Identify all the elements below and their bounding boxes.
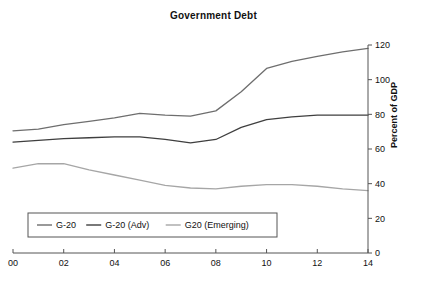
y-tick-label: 40 xyxy=(375,179,385,189)
series-line-0 xyxy=(13,48,368,130)
legend-label-0: G-20 xyxy=(56,220,76,230)
series-group xyxy=(13,48,368,190)
legend-label-2: G20 (Emerging) xyxy=(185,220,249,230)
x-tick-label: 06 xyxy=(160,258,170,268)
chart-legend: G-20G-20 (Adv)G20 (Emerging) xyxy=(28,213,277,237)
chart-container: Government Debt 020406080100120000204060… xyxy=(0,0,427,288)
x-tick-label: 08 xyxy=(211,258,221,268)
y-tick-label: 120 xyxy=(375,40,390,50)
y-tick-label: 80 xyxy=(375,110,385,120)
series-line-2 xyxy=(13,164,368,191)
y-tick-label: 100 xyxy=(375,75,390,85)
x-tick-label: 02 xyxy=(59,258,69,268)
x-tick-label: 12 xyxy=(312,258,322,268)
chart-plot-area: 0204060801001200002040608101214 G-20G-20… xyxy=(0,0,427,288)
x-tick-label: 10 xyxy=(262,258,272,268)
y-tick-label: 20 xyxy=(375,214,385,224)
x-tick-label: 00 xyxy=(8,258,18,268)
y-tick-label: 0 xyxy=(375,248,380,258)
series-line-1 xyxy=(13,115,368,143)
x-tick-label: 04 xyxy=(109,258,119,268)
legend-label-1: G-20 (Adv) xyxy=(105,220,149,230)
x-tick-label: 14 xyxy=(363,258,373,268)
y-tick-label: 60 xyxy=(375,144,385,154)
